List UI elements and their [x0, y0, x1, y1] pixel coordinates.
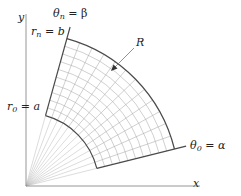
- origin-rays: [26, 116, 97, 186]
- y-axis-label: y: [17, 11, 25, 24]
- x-axis-label: x: [193, 177, 200, 190]
- origin-ray: [26, 123, 63, 186]
- origin-ray: [26, 135, 78, 186]
- region-pointer-line: [114, 48, 134, 68]
- polar-grid: [48, 43, 171, 167]
- theta-n-label: θn = β: [53, 7, 87, 21]
- r-n-label: rn = b: [31, 25, 65, 39]
- polar-region-diagram: y x θn = β rn = b r0 = a θ0 = α R: [0, 0, 241, 196]
- theta-0-label: θ0 = α: [190, 139, 226, 153]
- ray-theta-n: [46, 27, 71, 116]
- origin-ray: [26, 156, 93, 186]
- origin-ray: [26, 150, 90, 186]
- r-0-label: r0 = a: [7, 100, 40, 114]
- region-label: R: [135, 36, 144, 49]
